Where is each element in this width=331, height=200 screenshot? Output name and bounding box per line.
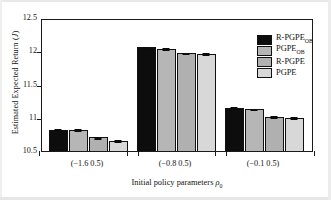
x-axis-tick-mark xyxy=(39,151,40,156)
y-axis-tick-label: 11.5 xyxy=(23,80,37,89)
x-axis-title: Initial policy parameters ρ0 xyxy=(41,178,313,189)
error-bar xyxy=(55,129,62,132)
legend-label-subscript: OB xyxy=(296,49,304,55)
legend-swatch xyxy=(257,35,272,45)
legend-swatch xyxy=(257,57,272,67)
bar-group xyxy=(49,18,128,151)
bar-column xyxy=(49,18,68,151)
error-bar xyxy=(183,53,190,56)
plot-area: R-PGPEOBPGPEOBR-PGPEPGPE xyxy=(41,19,313,152)
bar xyxy=(157,49,176,151)
bar-column xyxy=(89,18,108,151)
bar-column xyxy=(225,18,244,151)
bar xyxy=(137,47,156,151)
error-bar xyxy=(95,137,102,140)
legend-label: PGPEOB xyxy=(276,44,305,57)
bar-group xyxy=(137,18,216,151)
bar-column xyxy=(177,18,196,151)
y-axis-title-main: Estimated Expected Return ( xyxy=(11,37,20,134)
bar-chart-figure: Estimated Expected Return (J) 10.51111.5… xyxy=(0,0,331,200)
legend-item[interactable]: PGPEOB xyxy=(257,45,313,56)
bar xyxy=(177,53,196,151)
bar xyxy=(285,118,304,151)
bar xyxy=(49,130,68,151)
bar-column xyxy=(109,18,128,151)
error-bar xyxy=(251,109,258,112)
x-axis-tick-mark xyxy=(127,151,128,156)
error-bar xyxy=(231,107,238,110)
y-axis-tick-label: 11 xyxy=(29,113,37,122)
bar xyxy=(109,141,128,151)
legend: R-PGPEOBPGPEOBR-PGPEPGPE xyxy=(257,34,313,78)
y-axis-tick-label: 12.5 xyxy=(23,13,37,22)
legend-label: R-PGPE xyxy=(276,57,305,67)
y-axis-title-tail: ) xyxy=(11,31,20,34)
x-axis-group-label: (−1.6 0.5) xyxy=(47,159,127,168)
x-axis-group-label: (−0.1 0.5) xyxy=(223,159,303,168)
error-bar xyxy=(163,48,170,51)
legend-swatch xyxy=(257,68,272,78)
bar xyxy=(245,109,264,151)
y-axis-tick-label: 10.5 xyxy=(23,146,37,155)
bar xyxy=(89,137,108,151)
bar xyxy=(197,54,216,151)
error-bar xyxy=(203,53,210,56)
legend-item[interactable]: R-PGPE xyxy=(257,56,313,67)
legend-swatch xyxy=(257,46,272,56)
y-axis-title: Estimated Expected Return (J) xyxy=(11,8,20,158)
legend-label-subscript: OB xyxy=(305,38,313,44)
error-bar xyxy=(115,140,122,143)
bar xyxy=(69,130,88,151)
bar-column xyxy=(137,18,156,151)
y-axis-title-symbol: J xyxy=(11,34,20,38)
y-axis-tick-label: 12 xyxy=(29,46,37,55)
x-axis-title-symbol-sub: 0 xyxy=(220,183,223,189)
x-axis-tick-mark xyxy=(226,151,227,156)
x-axis-tick-mark xyxy=(138,151,139,156)
error-bar xyxy=(75,129,82,132)
bar-column xyxy=(69,18,88,151)
x-axis-group-label: (−0.8 0.5) xyxy=(135,159,215,168)
legend-item[interactable]: PGPE xyxy=(257,67,313,78)
bar xyxy=(225,108,244,151)
x-axis-tick-mark xyxy=(215,151,216,156)
x-axis-tick-mark xyxy=(314,151,315,156)
x-axis-title-main: Initial policy parameters xyxy=(132,178,214,187)
error-bar xyxy=(291,117,298,120)
bar-column xyxy=(157,18,176,151)
error-bar xyxy=(143,47,150,50)
bar xyxy=(265,117,284,151)
error-bar xyxy=(271,116,278,119)
bar-column xyxy=(197,18,216,151)
legend-label: PGPE xyxy=(276,68,296,78)
